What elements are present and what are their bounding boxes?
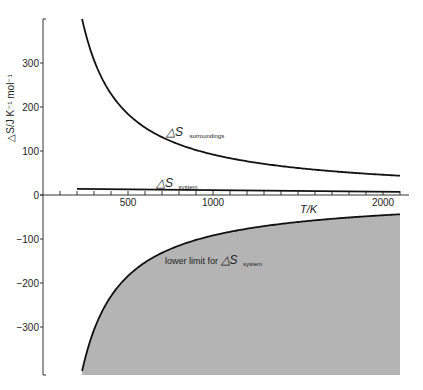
- y-tick-label: −200: [16, 278, 39, 289]
- y-tick-label: 300: [22, 58, 39, 69]
- y-tick-label: 100: [22, 146, 39, 157]
- surroundings-curve: [82, 19, 400, 176]
- entropy-chart: 3002001000−100−200−30050010002000 △S/J K…: [0, 0, 423, 390]
- y-axis-label: △S/J K⁻¹ mol⁻¹: [5, 74, 16, 142]
- y-tick-label: 200: [22, 102, 39, 113]
- x-tick-label: 2000: [372, 197, 395, 208]
- y-tick-label: 0: [33, 190, 39, 201]
- x-tick-label: 500: [120, 197, 137, 208]
- x-tick-label: 1000: [202, 197, 225, 208]
- lower-limit-fill: [82, 214, 400, 375]
- y-tick-label: −100: [16, 234, 39, 245]
- surroundings-label: △S surroundings: [165, 122, 224, 139]
- lower-limit-shaded-region: [82, 214, 400, 375]
- x-axis-label: T/K: [300, 203, 318, 215]
- system-label: △S system: [155, 173, 197, 190]
- system-line: [77, 189, 400, 192]
- y-tick-label: −300: [16, 322, 39, 333]
